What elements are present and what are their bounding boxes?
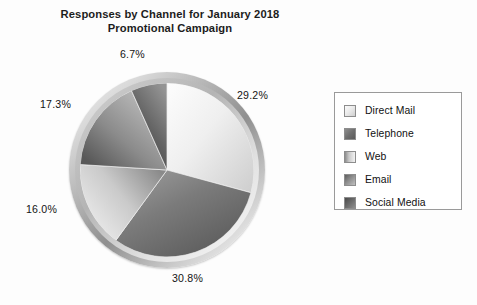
legend-item[interactable]: Telephone [344,123,455,144]
slice-label-direct-mail: 29.2% [237,89,268,101]
legend-item-label: Telephone [365,128,414,139]
email-swatch [344,174,356,186]
pie-chart-figure: Responses by Channel for January 2018 Pr… [0,0,477,305]
slice-label-telephone: 30.8% [172,272,203,284]
pie-chart [69,72,265,268]
page-title: Responses by Channel for January 2018 Pr… [0,8,340,35]
telephone-swatch [344,128,356,140]
legend-item[interactable]: Email [344,169,455,190]
legend-item[interactable]: Social Media [344,192,455,213]
social-media-swatch [344,197,356,209]
legend-item-label: Web [365,151,386,162]
pie-slices-svg [80,83,254,257]
legend-item-label: Email [365,174,391,185]
slice-label-web: 16.0% [26,203,57,215]
direct-mail-swatch [344,105,356,117]
legend-item-label: Direct Mail [365,105,415,116]
legend: Direct MailTelephoneWebEmailSocial Media [334,92,462,210]
slice-label-social-media: 6.7% [120,48,145,60]
chart-title-line-2: Promotional Campaign [0,22,340,36]
legend-item-list: Direct MailTelephoneWebEmailSocial Media [344,100,455,215]
legend-item-label: Social Media [365,197,426,208]
legend-item[interactable]: Web [344,146,455,167]
slice-label-email: 17.3% [40,98,71,110]
pie-slices-area [80,83,254,257]
legend-item[interactable]: Direct Mail [344,100,455,121]
chart-title-line-1: Responses by Channel for January 2018 [61,8,280,20]
web-swatch [344,151,356,163]
